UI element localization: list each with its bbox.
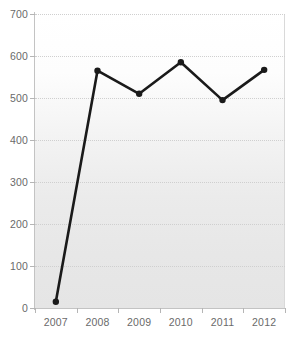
y-tick-label: 300 xyxy=(10,176,28,188)
x-tick-mark xyxy=(285,308,286,313)
x-axis-labels: 200720082009201020112012 xyxy=(35,316,285,336)
x-tick-label: 2011 xyxy=(211,316,234,328)
gridline xyxy=(35,140,285,141)
y-tick-label: 0 xyxy=(22,302,28,314)
gridline xyxy=(35,98,285,99)
x-tick-label: 2012 xyxy=(252,316,276,328)
x-tick-mark xyxy=(118,308,119,313)
x-tick-mark xyxy=(243,308,244,313)
x-tick-label: 2008 xyxy=(85,316,109,328)
y-tick-label: 200 xyxy=(10,218,28,230)
y-tick-label: 500 xyxy=(10,92,28,104)
line-chart-figure: 0100200300400500600700 20072008200920102… xyxy=(0,0,293,340)
y-tick-label: 400 xyxy=(10,134,28,146)
y-tick-label: 700 xyxy=(10,8,28,20)
x-tick-mark xyxy=(202,308,203,313)
x-tick-label: 2007 xyxy=(44,316,68,328)
y-tick-label: 600 xyxy=(10,50,28,62)
y-tick-label: 100 xyxy=(10,260,28,272)
gridline xyxy=(35,266,285,267)
x-tick-mark xyxy=(77,308,78,313)
gridline xyxy=(35,224,285,225)
gridline xyxy=(35,14,285,15)
x-tick-label: 2009 xyxy=(127,316,151,328)
plot-area xyxy=(35,14,285,308)
gridline xyxy=(35,56,285,57)
x-tick-label: 2010 xyxy=(169,316,193,328)
gridline xyxy=(35,182,285,183)
x-tick-mark xyxy=(35,308,36,313)
x-tick-mark xyxy=(160,308,161,313)
y-axis-labels: 0100200300400500600700 xyxy=(0,0,33,340)
